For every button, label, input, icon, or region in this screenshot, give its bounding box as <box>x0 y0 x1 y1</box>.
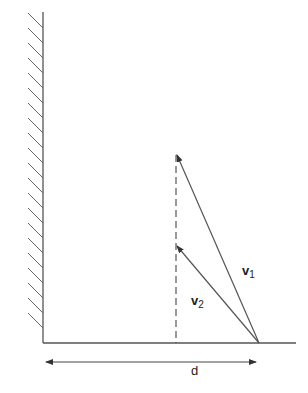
vector-v1 <box>177 155 259 343</box>
v2-subscript: 2 <box>198 299 204 310</box>
label-v1: v1 <box>242 263 255 280</box>
diagram-canvas <box>0 0 308 393</box>
wall <box>28 12 43 343</box>
vector-v2 <box>177 246 259 343</box>
label-v2: v2 <box>191 293 204 310</box>
label-d: d <box>191 363 198 378</box>
v1-subscript: 1 <box>249 269 255 280</box>
